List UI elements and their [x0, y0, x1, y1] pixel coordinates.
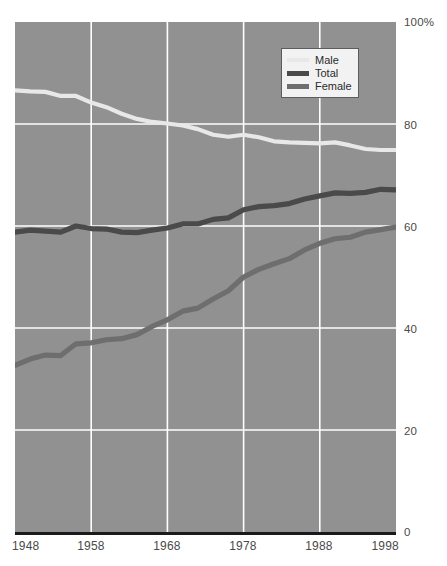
chart-title-strip [96, 0, 256, 6]
series-lines [15, 90, 396, 365]
legend-item-male: Male [287, 54, 353, 66]
gridlines [15, 22, 396, 532]
chart-legend: Male Total Female [281, 48, 359, 98]
legend-label-female: Female [315, 81, 352, 92]
plot-area [15, 22, 396, 532]
x-tick-label-1978: 1978 [229, 540, 257, 552]
series-line-female [15, 227, 396, 365]
y-tick-label-20: 20 [404, 426, 417, 438]
x-tick-label-1998: 1998 [372, 540, 400, 552]
x-tick-label-1958: 1958 [77, 540, 105, 552]
labor-force-participation-chart: 100% 80 60 40 20 0 1948 1958 1968 1978 1… [0, 0, 447, 566]
legend-swatch-female [287, 84, 309, 89]
legend-label-male: Male [315, 55, 339, 66]
plot-svg [15, 22, 396, 532]
y-tick-label-100: 100% [404, 17, 434, 29]
y-tick-label-0: 0 [404, 527, 411, 539]
series-line-male [15, 90, 396, 150]
x-tick-label-1988: 1988 [305, 540, 333, 552]
legend-swatch-total [287, 71, 309, 76]
legend-label-total: Total [315, 68, 338, 79]
x-tick-label-1968: 1968 [153, 540, 181, 552]
x-axis-line [15, 532, 396, 535]
x-tick-label-1948: 1948 [12, 540, 40, 552]
legend-swatch-male [287, 58, 309, 62]
y-tick-label-60: 60 [404, 222, 417, 234]
y-tick-label-40: 40 [404, 324, 417, 336]
y-tick-label-80: 80 [404, 120, 417, 132]
legend-item-female: Female [287, 80, 353, 92]
legend-item-total: Total [287, 67, 353, 79]
